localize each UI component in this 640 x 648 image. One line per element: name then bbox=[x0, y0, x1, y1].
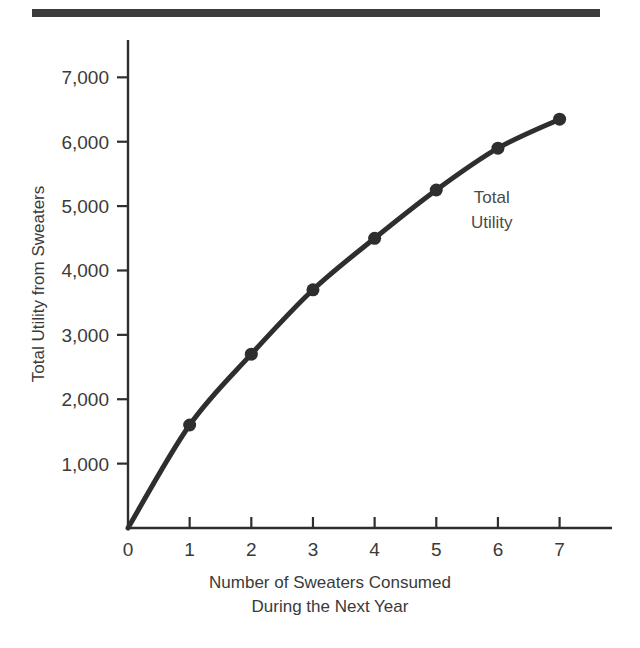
x-tick-label-2: 2 bbox=[246, 539, 257, 560]
y-tick-label-4000: 4,000 bbox=[61, 260, 109, 281]
figure-container: 1,0002,0003,0004,0005,0006,0007,000 0123… bbox=[0, 0, 640, 648]
y-tick-label-1000: 1,000 bbox=[61, 454, 109, 475]
y-axis-ticks bbox=[117, 77, 128, 463]
data-point-x2 bbox=[245, 348, 258, 361]
x-tick-label-1: 1 bbox=[184, 539, 195, 560]
x-tick-label-0: 0 bbox=[123, 539, 134, 560]
series-annotation-total-utility: TotalUtility bbox=[471, 188, 513, 232]
y-tick-label-5000: 5,000 bbox=[61, 196, 109, 217]
x-tick-label-3: 3 bbox=[308, 539, 319, 560]
data-point-x1 bbox=[183, 418, 196, 431]
x-axis-ticks bbox=[190, 517, 560, 528]
data-point-x5 bbox=[430, 184, 443, 197]
chart-canvas: 1,0002,0003,0004,0005,0006,0007,000 0123… bbox=[0, 0, 640, 648]
x-axis-tick-labels: 01234567 bbox=[123, 539, 565, 560]
x-tick-label-4: 4 bbox=[369, 539, 380, 560]
y-tick-label-7000: 7,000 bbox=[61, 67, 109, 88]
x-tick-label-6: 6 bbox=[493, 539, 504, 560]
annotation-line-1: Total bbox=[474, 188, 510, 207]
y-axis-tick-labels: 1,0002,0003,0004,0005,0006,0007,000 bbox=[61, 67, 109, 474]
total-utility-line-chart: 1,0002,0003,0004,0005,0006,0007,000 0123… bbox=[0, 0, 640, 648]
x-tick-label-7: 7 bbox=[554, 539, 565, 560]
data-point-markers bbox=[183, 113, 566, 432]
data-point-x6 bbox=[491, 142, 504, 155]
x-axis-title-line-1: Number of Sweaters Consumed bbox=[209, 573, 451, 592]
x-axis-title-line-2: During the Next Year bbox=[252, 597, 409, 616]
total-utility-curve bbox=[128, 119, 560, 528]
data-point-x4 bbox=[368, 232, 381, 245]
y-tick-label-2000: 2,000 bbox=[61, 389, 109, 410]
y-tick-label-6000: 6,000 bbox=[61, 132, 109, 153]
data-point-x3 bbox=[306, 283, 319, 296]
y-tick-label-3000: 3,000 bbox=[61, 325, 109, 346]
annotation-line-2: Utility bbox=[471, 213, 513, 232]
x-tick-label-5: 5 bbox=[431, 539, 442, 560]
data-point-x7 bbox=[553, 113, 566, 126]
axes bbox=[128, 40, 612, 528]
y-axis-title: Total Utility from Sweaters bbox=[29, 186, 48, 383]
